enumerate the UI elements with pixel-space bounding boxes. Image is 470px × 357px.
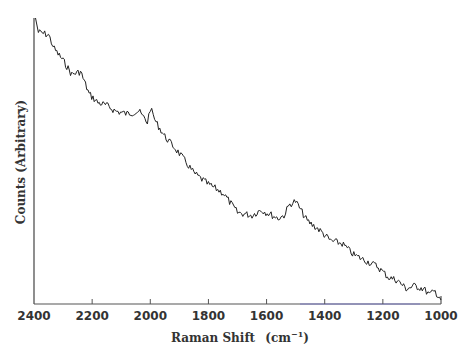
x-tick-label: 1000 (424, 309, 457, 323)
x-tick-label: 1400 (308, 309, 341, 323)
x-tick-label: 1800 (192, 309, 225, 323)
x-tick-label: 2000 (134, 309, 167, 323)
x-tick-label: 2400 (17, 309, 50, 323)
x-tick-label: 1200 (366, 309, 399, 323)
x-tick-labels: 24002200200018001600140012001000 (17, 309, 457, 323)
x-ticks (92, 299, 383, 304)
y-axis-title: Counts (Arbitrary) (14, 100, 28, 224)
x-tick-label: 1600 (250, 309, 283, 323)
raman-spectrum-chart: 24002200200018001600140012001000 Raman S… (0, 0, 470, 357)
spectrum-line (36, 18, 442, 300)
x-tick-label: 2200 (75, 309, 108, 323)
x-axis-title: Raman Shift (cm−1) (171, 329, 309, 345)
